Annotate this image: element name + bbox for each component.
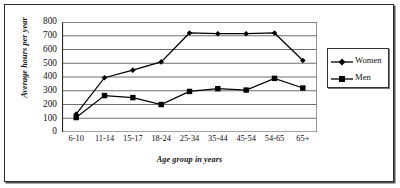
y-tick-label: 0 [31,127,57,136]
plot-svg [62,22,317,132]
women-series-marker-icon [331,54,353,66]
y-tick-label: 700 [31,31,57,40]
legend-label-women: Women [355,55,382,65]
gridlines [62,22,317,132]
chart-figure-frame: Average hours per year 80070060050040030… [4,4,394,182]
y-tick-label: 400 [31,72,57,81]
data-point [243,87,248,92]
series-line [76,33,303,114]
data-point [102,93,107,98]
data-point [130,95,135,100]
line-chart: Average hours per year 80070060050040030… [5,5,395,183]
series-women [73,30,305,117]
x-axis-tick-labels: 6-1011-1415-1718-2425-3435-4445-5454-656… [62,134,317,148]
series-line [76,78,303,117]
legend-item-women[interactable]: Women [331,53,382,67]
data-point [187,89,192,94]
y-tick-label: 300 [31,86,57,95]
y-axis-tick-labels: 8007006005004003002001000 [27,5,57,183]
data-point [73,115,78,120]
men-series-marker-icon [331,71,353,83]
legend-label-men: Men [355,72,371,82]
data-point [300,85,305,90]
legend-item-men[interactable]: Men [331,70,371,84]
plot-area [62,22,317,132]
y-tick-label: 100 [31,114,57,123]
y-tick-label: 600 [31,45,57,54]
chart-legend: Women Men [327,48,389,88]
data-point [215,86,220,91]
series-men [73,76,305,121]
data-series-layer [73,30,305,120]
y-tick-label: 200 [31,100,57,109]
data-point [130,67,136,73]
x-axis-title: Age group in years [62,155,317,164]
data-point [158,102,163,107]
data-point [272,76,277,81]
x-tick-label: 65+ [283,134,323,143]
y-tick-label: 500 [31,59,57,68]
y-tick-label: 800 [31,17,57,26]
